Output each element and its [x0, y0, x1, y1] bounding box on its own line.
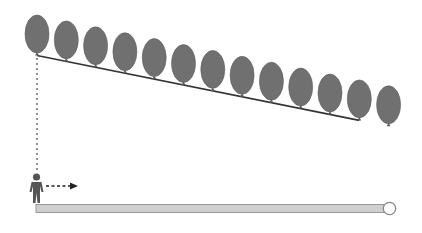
balloon — [54, 21, 78, 62]
balloon-body — [347, 80, 371, 118]
balloon-body — [172, 45, 196, 83]
balloon — [84, 27, 108, 68]
balloon-body — [113, 33, 137, 71]
balloon — [172, 45, 196, 86]
arrow-head — [70, 183, 78, 190]
balloon-body — [377, 86, 401, 124]
balloon — [230, 56, 254, 97]
balloon — [259, 62, 283, 103]
balloon — [347, 80, 371, 121]
balloon-body — [54, 21, 78, 59]
balloon-body — [142, 39, 166, 77]
balloon-body — [318, 74, 342, 112]
dashed-right-arrow-icon — [46, 183, 78, 190]
balloon-body — [230, 56, 254, 94]
ground-bar — [36, 205, 384, 213]
person-body — [30, 182, 44, 203]
balloon — [201, 50, 225, 91]
balloon-body — [84, 27, 108, 65]
person-head — [33, 173, 40, 180]
balloon-diagram — [0, 0, 422, 233]
circle-marker-icon — [383, 202, 395, 214]
balloon-body — [289, 68, 313, 106]
balloon — [289, 68, 313, 109]
balloon-layer — [25, 15, 401, 126]
balloon — [142, 39, 166, 80]
balloon — [25, 15, 49, 56]
balloon — [113, 33, 137, 73]
balloon-body — [259, 62, 283, 100]
balloon-body — [25, 15, 49, 53]
balloon — [318, 74, 342, 115]
walking-person-icon — [30, 173, 44, 203]
balloon — [377, 86, 401, 127]
balloon-body — [201, 50, 225, 88]
